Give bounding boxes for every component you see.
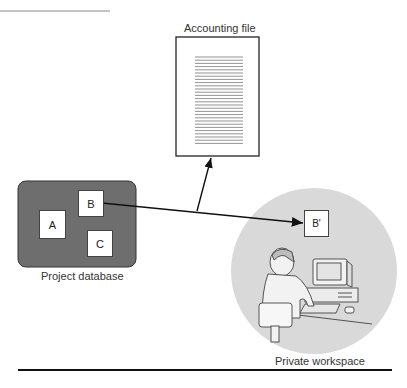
arrow-to-accounting-file [197,158,211,211]
project-database-label: Project database [41,270,124,282]
diagram-canvas [0,0,407,388]
b-prime-label: B' [312,218,321,229]
item-a-label: A [49,219,56,231]
project-database-container [18,181,136,267]
database-item-c: C [87,230,113,257]
accounting-file-document [176,37,259,156]
private-workspace-label: Private workspace [275,355,365,367]
item-b-label: B [87,198,94,210]
item-c-label: C [96,238,104,250]
workspace-copy-b-prime: B' [304,210,329,237]
accounting-file-label: Accounting file [184,22,256,34]
database-item-a: A [39,210,66,239]
database-item-b: B [78,190,104,217]
